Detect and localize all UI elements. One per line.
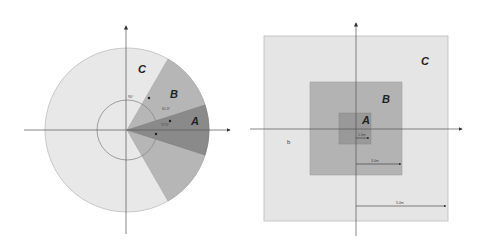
dimension-label-c: 5.0m (396, 201, 404, 205)
right-diagram: 1.0m 3.0m 5.0m C B A b (250, 23, 462, 236)
angle-marker-a-lower (155, 133, 157, 135)
zone-label-b-left: B (170, 88, 178, 100)
zone-label-a-left: A (190, 115, 199, 127)
zone-label-b-right: B (382, 93, 390, 105)
angle-label-b: 61.3° (162, 107, 171, 111)
zone-label-c-right: C (421, 55, 430, 67)
left-diagram: 90° 61.3° 17.5° C B A (24, 26, 230, 234)
zone-label-c-left: C (138, 63, 147, 75)
angle-marker-a-upper (169, 120, 171, 122)
angle-marker-b (148, 97, 150, 99)
dimension-label-a: 1.0m (358, 133, 366, 137)
zone-label-a-right: A (361, 114, 370, 126)
angle-label-90: 90° (128, 95, 134, 99)
dimension-label-b: 3.0m (371, 159, 379, 163)
angle-label-a: 17.5° (161, 123, 170, 127)
diagram-canvas: 90° 61.3° 17.5° C B A 1.0m 3.0m 5.0m C B… (0, 0, 484, 245)
